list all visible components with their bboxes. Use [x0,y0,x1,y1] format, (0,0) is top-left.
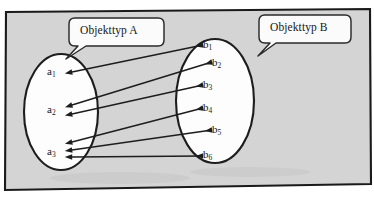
callout-b-label: Objekttyp B [270,21,328,33]
set-a-node-a1: a1 [47,65,56,79]
node-subscript: 3 [209,83,213,92]
node-subscript: 4 [209,106,213,115]
node-subscript: 2 [218,61,222,70]
set-b-node-b1: b1 [203,38,212,52]
node-subscript: 1 [209,43,213,52]
callout-a-label: Objekttyp A [80,24,138,36]
set-a-node-a3: a3 [47,145,56,159]
connection-a3-b6 [72,156,203,157]
node-subscript: 5 [218,128,222,137]
set-b-node-b5: b5 [212,123,221,137]
set-b-node-b3: b3 [203,78,212,92]
set-b-node-b4: b4 [203,101,212,115]
set-b-node-b2: b2 [212,56,221,70]
set-b-node-b6: b6 [203,148,212,162]
node-subscript: 2 [52,108,56,117]
node-subscript: 6 [209,153,213,162]
set-a-ellipse [24,54,98,170]
node-subscript: 1 [52,70,56,79]
set-a-node-a2: a2 [47,103,56,117]
diagram-canvas: Objekttyp A Objekttyp B a1a2a3b1b2b3b4b5… [0,0,374,201]
node-subscript: 3 [52,150,56,159]
